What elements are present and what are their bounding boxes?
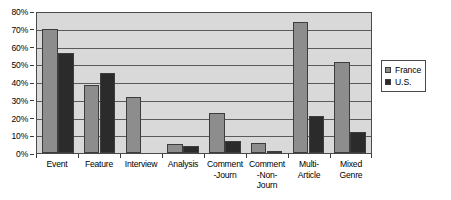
x-tick-mark <box>246 154 247 158</box>
bar <box>225 141 241 153</box>
y-axis: 0%10%20%30%40%50%60%70%80% <box>0 12 34 154</box>
x-axis-label: Interview <box>120 159 162 170</box>
bar-group <box>204 13 246 153</box>
bar-group <box>329 13 371 153</box>
bar <box>42 29 58 153</box>
x-tick-mark <box>36 154 37 158</box>
bar <box>267 151 283 153</box>
x-axis-label: Analysis <box>162 159 204 170</box>
y-tick-mark <box>30 29 34 30</box>
x-tick-mark <box>204 154 205 158</box>
x-tick-mark <box>288 154 289 158</box>
y-tick-mark <box>30 100 34 101</box>
x-axis-label: Mixed Genre <box>330 159 372 180</box>
x-tick-mark <box>78 154 79 158</box>
y-tick-label: 70% <box>12 25 28 35</box>
legend-label: U.S. <box>395 77 411 87</box>
x-tick-mark <box>330 154 331 158</box>
bar <box>126 97 142 153</box>
legend-label: France <box>395 65 421 75</box>
bar-group <box>121 13 163 153</box>
chart-legend: FranceU.S. <box>381 60 426 92</box>
x-tick-mark <box>371 154 372 158</box>
legend-item[interactable]: U.S. <box>385 76 421 88</box>
y-tick-mark <box>30 47 34 48</box>
y-tick-label: 60% <box>12 43 28 53</box>
y-tick-label: 50% <box>12 60 28 70</box>
x-tick-mark <box>162 154 163 158</box>
bar <box>334 62 350 153</box>
y-tick-mark <box>30 136 34 137</box>
x-axis-label: Multi- Article <box>288 159 330 180</box>
y-tick-label: 10% <box>12 131 28 141</box>
legend-item[interactable]: France <box>385 64 421 76</box>
x-axis-label: Comment -Journ <box>204 159 246 180</box>
legend-swatch-us <box>385 79 391 85</box>
y-tick-label: 20% <box>12 114 28 124</box>
x-axis-labels: EventFeatureInterviewAnalysisComment -Jo… <box>36 159 372 199</box>
y-tick-label: 30% <box>12 96 28 106</box>
x-axis-label: Comment -Non- Journ <box>246 159 288 191</box>
y-tick-mark <box>30 154 34 155</box>
bar <box>167 144 183 153</box>
bar <box>350 132 366 153</box>
bar-group <box>162 13 204 153</box>
bar-chart: 0%10%20%30%40%50%60%70%80% EventFeatureI… <box>0 0 451 200</box>
y-tick-label: 80% <box>12 7 28 17</box>
y-tick-mark <box>30 83 34 84</box>
bar <box>209 113 225 153</box>
x-axis-label: Event <box>36 159 78 170</box>
bar <box>58 53 74 153</box>
bar <box>100 73 116 154</box>
bar-group <box>79 13 121 153</box>
y-tick-mark <box>30 118 34 119</box>
y-tick-label: 0% <box>16 149 28 159</box>
bar <box>183 146 199 153</box>
y-tick-label: 40% <box>12 78 28 88</box>
bar <box>84 85 100 153</box>
bar <box>293 22 309 153</box>
bar-group <box>288 13 330 153</box>
bar <box>309 116 325 153</box>
y-tick-mark <box>30 65 34 66</box>
legend-swatch-france <box>385 67 391 73</box>
y-tick-mark <box>30 12 34 13</box>
bar-group <box>37 13 79 153</box>
x-tick-mark <box>120 154 121 158</box>
bar <box>251 143 267 154</box>
bar-group <box>246 13 288 153</box>
x-axis-label: Feature <box>78 159 120 170</box>
bars-layer <box>37 13 371 153</box>
x-axis-ticks <box>36 154 372 158</box>
